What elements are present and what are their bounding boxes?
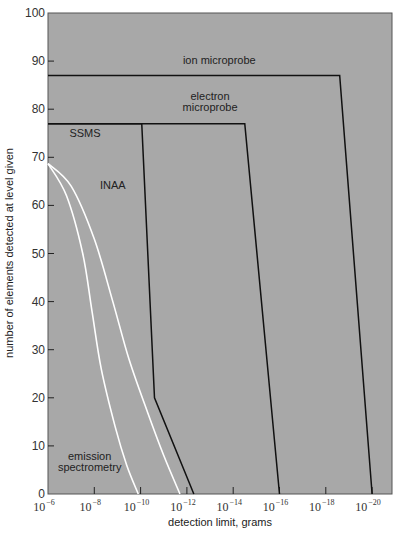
x-tick-label: 10−18: [309, 498, 335, 514]
emission-spectrometry-label: spectrometry: [58, 461, 122, 473]
x-tick-label: 10−16: [263, 498, 289, 514]
detection-limit-chart: 0102030405060708090100 10−610−810−1010−1…: [0, 0, 400, 536]
y-tick-label: 70: [32, 150, 46, 164]
x-tick-label: 10−20: [355, 498, 381, 514]
x-tick-label: 10−12: [170, 498, 196, 514]
y-tick-label: 100: [25, 6, 45, 20]
electron-microprobe-label: microprobe: [183, 101, 238, 113]
x-tick-label: 10−10: [124, 498, 150, 514]
ion-microprobe-label: ion microprobe: [183, 54, 256, 66]
y-tick-label: 30: [32, 343, 46, 357]
y-tick-label: 80: [32, 102, 46, 116]
x-tick-label: 10−14: [216, 498, 242, 514]
SSMS-label: SSMS: [69, 127, 100, 139]
y-tick-label: 50: [32, 247, 46, 261]
y-axis-label: number of elements detected at level giv…: [3, 148, 15, 358]
y-tick-label: 90: [32, 54, 46, 68]
y-tick-label: 40: [32, 295, 46, 309]
y-tick-label: 0: [38, 487, 45, 501]
y-tick-label: 60: [32, 198, 46, 212]
x-axis-label: detection limit, grams: [168, 516, 272, 528]
INAA-label: INAA: [100, 179, 126, 191]
y-tick-label: 10: [32, 439, 46, 453]
x-tick-label: 10−6: [33, 498, 55, 514]
x-tick-label: 10−8: [80, 498, 102, 514]
y-tick-label: 20: [32, 391, 46, 405]
